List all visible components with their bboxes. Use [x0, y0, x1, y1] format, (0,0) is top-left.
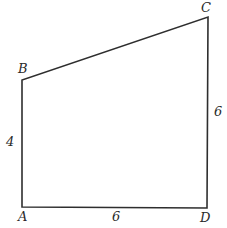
- quadrilateral-abcd: [22, 17, 208, 208]
- vertex-label-c: C: [201, 0, 211, 15]
- side-length-ad: 6: [112, 209, 120, 224]
- vertex-label-b: B: [17, 61, 28, 76]
- side-length-cd: 6: [214, 104, 222, 119]
- vertex-label-a: A: [17, 209, 27, 224]
- vertex-label-d: D: [199, 210, 211, 225]
- quadrilateral-diagram: A B C D 4 6 6: [0, 0, 227, 228]
- side-length-ab: 4: [5, 134, 14, 149]
